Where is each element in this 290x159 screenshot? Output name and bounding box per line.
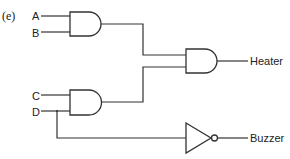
input-label-d: D [32,106,40,118]
output-label-heater: Heater [250,55,283,67]
part-label: (e) [2,9,15,23]
input-label-b: B [32,27,39,39]
circuit-svg: (e) A B C D Heater Buzzer [0,0,290,159]
and-gate-2 [70,90,102,115]
input-label-c: C [32,90,40,102]
wire-and1-to-and3 [101,24,186,55]
junction-d [56,110,58,112]
and-gate-1 [70,12,101,36]
logic-circuit-diagram: (e) A B C D Heater Buzzer [0,0,290,159]
not-gate-bubble [212,135,218,141]
output-label-buzzer: Buzzer [250,132,285,144]
not-gate [186,123,211,153]
wire-and2-to-and3 [102,67,187,102]
and-gate-3 [186,49,217,73]
input-label-a: A [32,10,40,22]
